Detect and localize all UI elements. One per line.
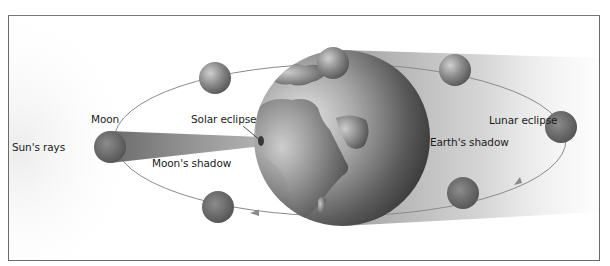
moon-bottom: [202, 191, 234, 223]
label-sun-rays: Sun's rays: [12, 141, 65, 153]
label-moons-shadow: Moon's shadow: [152, 157, 231, 169]
label-lunar-eclipse: Lunar eclipse: [489, 114, 557, 126]
moon-top-left: [199, 62, 231, 94]
label-earths-shadow: Earth's shadow: [430, 136, 509, 148]
moon-top: [317, 47, 349, 79]
moon-left: [94, 131, 126, 163]
moon-top-right: [439, 54, 471, 86]
earth: [254, 50, 430, 226]
eclipse-diagram: [0, 0, 610, 266]
moon-bottom-right: [447, 177, 479, 209]
label-moon: Moon: [91, 113, 119, 125]
label-solar-eclipse: Solar eclipse: [191, 113, 256, 125]
